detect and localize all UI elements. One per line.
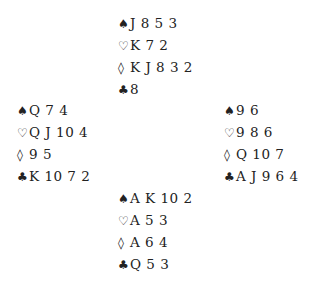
cards: A 5 3 xyxy=(130,212,168,228)
north-spades: ♠J 8 5 3 xyxy=(118,12,193,34)
club-icon: ♣ xyxy=(224,166,236,188)
north-diamonds: ◊K J 8 3 2 xyxy=(118,56,193,78)
cards: K J 8 3 2 xyxy=(130,59,193,75)
spade-icon: ♠ xyxy=(118,13,130,35)
diamond-icon: ◊ xyxy=(17,144,29,166)
club-icon: ♣ xyxy=(17,166,29,188)
diamond-icon: ◊ xyxy=(224,144,236,166)
heart-icon: ♡ xyxy=(118,35,130,57)
north-hearts: ♡K 7 2 xyxy=(118,34,193,56)
cards: Q J 10 4 xyxy=(29,124,88,140)
north-hand: ♠J 8 5 3 ♡K 7 2 ◊K J 8 3 2 ♣8 xyxy=(118,12,193,100)
diamond-icon: ◊ xyxy=(118,232,130,254)
cards: K 10 7 2 xyxy=(29,168,90,184)
cards: 9 8 6 xyxy=(236,124,273,140)
cards: Q 5 3 xyxy=(130,256,169,272)
west-spades: ♠Q 7 4 xyxy=(17,99,90,121)
west-hand: ♠Q 7 4 ♡Q J 10 4 ◊9 5 ♣K 10 7 2 xyxy=(17,99,90,187)
cards: A K 10 2 xyxy=(130,190,192,206)
spade-icon: ♠ xyxy=(224,100,236,122)
club-icon: ♣ xyxy=(118,79,130,101)
east-hand: ♠9 6 ♡9 8 6 ◊Q 10 7 ♣A J 9 6 4 xyxy=(224,99,299,187)
south-hand: ♠A K 10 2 ♡A 5 3 ◊A 6 4 ♣Q 5 3 xyxy=(118,187,192,275)
north-clubs: ♣8 xyxy=(118,78,193,100)
west-hearts: ♡Q J 10 4 xyxy=(17,121,90,143)
south-clubs: ♣Q 5 3 xyxy=(118,253,192,275)
cards: Q 10 7 xyxy=(236,146,284,162)
spade-icon: ♠ xyxy=(17,100,29,122)
cards: A J 9 6 4 xyxy=(236,168,299,184)
east-spades: ♠9 6 xyxy=(224,99,299,121)
cards: Q 7 4 xyxy=(29,102,68,118)
south-diamonds: ◊A 6 4 xyxy=(118,231,192,253)
heart-icon: ♡ xyxy=(17,122,29,144)
west-diamonds: ◊9 5 xyxy=(17,143,90,165)
cards: A 6 4 xyxy=(130,234,168,250)
cards: 9 5 xyxy=(29,146,52,162)
cards: J 8 5 3 xyxy=(130,15,178,31)
east-clubs: ♣A J 9 6 4 xyxy=(224,165,299,187)
east-hearts: ♡9 8 6 xyxy=(224,121,299,143)
cards: K 7 2 xyxy=(130,37,168,53)
club-icon: ♣ xyxy=(118,254,130,276)
cards: 9 6 xyxy=(236,102,259,118)
east-diamonds: ◊Q 10 7 xyxy=(224,143,299,165)
west-clubs: ♣K 10 7 2 xyxy=(17,165,90,187)
diamond-icon: ◊ xyxy=(118,57,130,79)
cards: 8 xyxy=(130,81,139,97)
heart-icon: ♡ xyxy=(118,210,130,232)
south-hearts: ♡A 5 3 xyxy=(118,209,192,231)
south-spades: ♠A K 10 2 xyxy=(118,187,192,209)
spade-icon: ♠ xyxy=(118,188,130,210)
heart-icon: ♡ xyxy=(224,122,236,144)
